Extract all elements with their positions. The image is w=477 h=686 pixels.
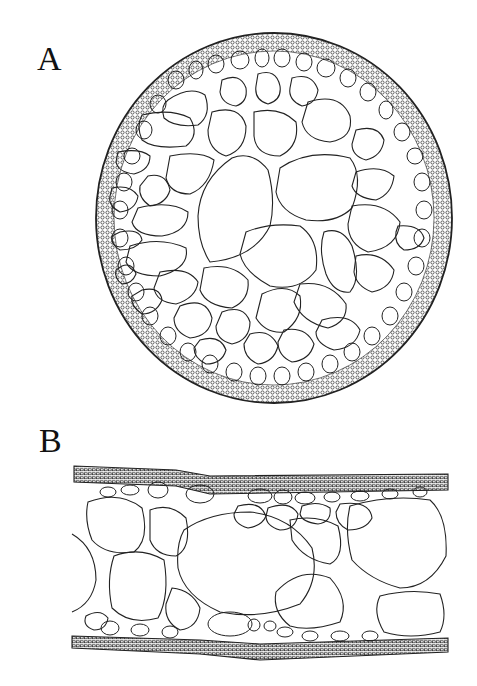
figure-drawing — [0, 0, 477, 686]
panel-b-section — [72, 466, 448, 660]
panel-a-section — [96, 33, 452, 403]
